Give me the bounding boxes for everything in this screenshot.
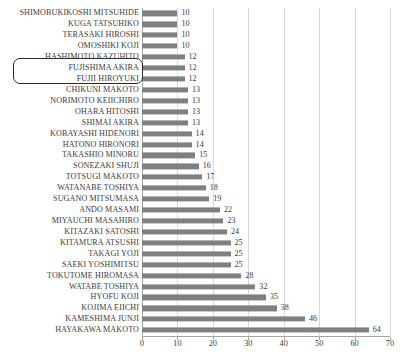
bar [142, 55, 185, 60]
bar [142, 306, 277, 311]
bar-row: HAYAKAWA MAKOTO64 [0, 325, 413, 336]
bar [142, 229, 227, 234]
bar-track: 19 [142, 194, 390, 205]
bar [142, 295, 266, 300]
bar-value-label: 64 [373, 326, 381, 334]
bar-value-label: 12 [189, 64, 197, 72]
bar [142, 218, 223, 223]
bar-track: 46 [142, 314, 390, 325]
x-tick-label: 20 [209, 340, 217, 348]
bar [142, 87, 188, 92]
bar-value-label: 23 [227, 217, 235, 225]
bar-track: 10 [142, 8, 390, 19]
category-label: FUJISHIMA AKIRA [68, 64, 139, 72]
category-label: TOTSUGI MAKOTO [66, 173, 139, 181]
bar [142, 98, 188, 103]
category-label: SHIMAI AKIRA [82, 119, 139, 127]
bar [142, 142, 192, 147]
category-label: KITAMURA ATSUSHI [60, 239, 139, 247]
bar [142, 65, 185, 70]
bar-value-label: 22 [224, 206, 232, 214]
bar-value-label: 12 [189, 53, 197, 61]
x-tick-label: 10 [173, 340, 181, 348]
bar [142, 120, 188, 125]
bar-value-label: 19 [213, 195, 221, 203]
bar-track: 12 [142, 63, 390, 74]
bar-row: KOBAYASHI HIDENORI14 [0, 128, 413, 139]
bar-row: SUGANO MITSUMASA19 [0, 194, 413, 205]
bar-row: OMOSHIKI KOJI10 [0, 41, 413, 52]
category-label: KOBAYASHI HIDENORI [50, 130, 139, 138]
x-tick-label: 40 [280, 340, 288, 348]
bar-track: 25 [142, 248, 390, 259]
bar-value-label: 38 [281, 304, 289, 312]
bar-row: SONEZAKI SHUJI16 [0, 161, 413, 172]
bar-track: 12 [142, 74, 390, 85]
bar-track: 13 [142, 95, 390, 106]
category-label: FUJII HIROYUKI [77, 75, 139, 83]
bar-track: 10 [142, 41, 390, 52]
bar-value-label: 10 [181, 31, 189, 39]
bar-value-label: 16 [203, 162, 211, 170]
bar-track: 32 [142, 281, 390, 292]
bar-row: HYOFU KOJI35 [0, 292, 413, 303]
bar [142, 251, 231, 256]
bar-row: HASHIMOTO KAZUHITO12 [0, 52, 413, 63]
x-tick-label: 70 [386, 340, 394, 348]
category-label: WATABE TOSHIYA [69, 282, 139, 290]
bar [142, 328, 369, 333]
bar-track: 38 [142, 303, 390, 314]
category-label: OMOSHIKI KOJI [78, 42, 139, 50]
bar-value-label: 17 [206, 173, 214, 181]
bar-value-label: 25 [235, 250, 243, 258]
bar [142, 153, 195, 158]
category-label: TAKAGI YOJI [88, 250, 139, 258]
bar-track: 28 [142, 270, 390, 281]
bar-track: 15 [142, 150, 390, 161]
category-label: SUGANO MITSUMASA [53, 195, 139, 203]
bar [142, 11, 177, 16]
bar-row: TERASAKI HIROSHI10 [0, 30, 413, 41]
category-label: TERASAKI HIROSHI [63, 31, 139, 39]
bar-row: FUJII HIROYUKI12 [0, 74, 413, 85]
bar [142, 207, 220, 212]
bar-row: MIYAUCHI MASAHIRO23 [0, 216, 413, 227]
category-label: NORIMOTO KEIICHIRO [50, 97, 139, 105]
bar-track: 35 [142, 292, 390, 303]
bar [142, 175, 202, 180]
bar-row: KITAZAKI SATOSHI24 [0, 226, 413, 237]
bar-track: 14 [142, 128, 390, 139]
bar-row: ANDO MASAMI22 [0, 205, 413, 216]
category-label: TAKASHIO MINORU [62, 151, 139, 159]
bar-track: 23 [142, 216, 390, 227]
x-tick-label: 30 [244, 340, 252, 348]
bar [142, 186, 206, 191]
category-label: HASHIMOTO KAZUHITO [45, 53, 139, 61]
bar-value-label: 35 [270, 293, 278, 301]
category-label: OHARA HITOSHI [75, 108, 139, 116]
bar-track: 13 [142, 84, 390, 95]
x-tick-label: 60 [350, 340, 358, 348]
bar-value-label: 25 [235, 261, 243, 269]
bar-track: 25 [142, 259, 390, 270]
category-label: TOKUTOME HIROMASA [47, 272, 139, 280]
bar [142, 240, 231, 245]
bar-value-label: 32 [259, 282, 267, 290]
bar-row: KUGA TATSUHIKO10 [0, 19, 413, 30]
bar-row: TAKAGI YOJI25 [0, 248, 413, 259]
bar-row: HATONO HIRONORI14 [0, 139, 413, 150]
x-tick-label: 0 [140, 340, 144, 348]
bar-value-label: 24 [231, 228, 239, 236]
bar [142, 317, 305, 322]
bar [142, 44, 177, 49]
category-label: MIYAUCHI MASAHIRO [52, 217, 139, 225]
bar-row: SHIMAI AKIRA13 [0, 117, 413, 128]
bar-track: 12 [142, 52, 390, 63]
bar-row: FUJISHIMA AKIRA12 [0, 63, 413, 74]
bar-value-label: 13 [192, 119, 200, 127]
bar [142, 22, 177, 27]
bar-track: 18 [142, 183, 390, 194]
bar-row: NORIMOTO KEIICHIRO13 [0, 95, 413, 106]
bar-row: TOKUTOME HIROMASA28 [0, 270, 413, 281]
bar-chart: SHIMOBUKIKOSHI MITSUHIDE10KUGA TATSUHIKO… [0, 0, 413, 363]
